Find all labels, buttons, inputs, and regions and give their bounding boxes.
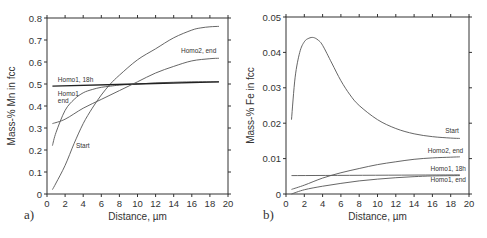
x-tick-label: 14 bbox=[409, 198, 420, 209]
curve-annotation: Homo2, end bbox=[181, 47, 217, 54]
curve-annotation: Homo1, 18h bbox=[58, 76, 94, 83]
y-tick-label: 0.8 bbox=[29, 13, 42, 24]
x-tick-label: 6 bbox=[99, 198, 104, 209]
x-axis-label: Distance, µm bbox=[348, 211, 407, 222]
x-tick-label: 16 bbox=[187, 198, 198, 209]
x-tick-label: 12 bbox=[150, 198, 161, 209]
y-axis-label: Mass-% Mn in fcc bbox=[6, 67, 17, 146]
curve-annotation: Start bbox=[76, 142, 90, 149]
y-tick-label: 0.6 bbox=[29, 57, 42, 68]
y-tick-label: 0 bbox=[37, 189, 42, 200]
panel-label: a) bbox=[24, 207, 34, 222]
curve-annotation: Homo1, 18h bbox=[431, 165, 467, 172]
x-tick-label: 2 bbox=[62, 198, 67, 209]
y-tick-label: 0.03 bbox=[263, 82, 282, 93]
curve-annotation: Start bbox=[445, 127, 459, 134]
y-tick-label: 0.01 bbox=[263, 153, 282, 164]
y-tick-label: 0.2 bbox=[29, 145, 42, 156]
figure: 0246810121416182000.10.20.30.40.50.60.70… bbox=[0, 0, 487, 238]
x-tick-label: 2 bbox=[302, 198, 307, 209]
x-tick-label: 4 bbox=[81, 198, 86, 209]
x-tick-label: 18 bbox=[205, 198, 216, 209]
y-tick-label: 0.04 bbox=[263, 47, 282, 58]
y-tick-label: 0.7 bbox=[29, 35, 42, 46]
x-tick-label: 18 bbox=[445, 198, 456, 209]
y-tick-label: 0.1 bbox=[29, 167, 42, 178]
y-tick-label: 0.3 bbox=[29, 123, 42, 134]
x-tick-label: 8 bbox=[117, 198, 122, 209]
chart-panel-b: 0246810121416182000.010.020.030.040.05Di… bbox=[245, 12, 474, 223]
x-axis-label: Distance, µm bbox=[108, 211, 167, 222]
x-tick-label: 16 bbox=[427, 198, 438, 209]
panel-label: b) bbox=[263, 207, 274, 222]
x-tick-label: 20 bbox=[464, 198, 475, 209]
chart-panel-a: 0246810121416182000.10.20.30.40.50.60.70… bbox=[6, 13, 233, 223]
x-tick-label: 14 bbox=[168, 198, 179, 209]
series-homo2-end bbox=[291, 157, 459, 190]
curve-annotation: Homo2, end bbox=[428, 147, 464, 154]
x-tick-label: 0 bbox=[283, 198, 288, 209]
plot-frame bbox=[47, 18, 228, 194]
x-tick-label: 0 bbox=[44, 198, 49, 209]
y-tick-label: 0.02 bbox=[263, 118, 282, 129]
x-tick-label: 12 bbox=[391, 198, 402, 209]
x-tick-label: 8 bbox=[357, 198, 362, 209]
curve-annotation: Homo1, end bbox=[431, 176, 467, 183]
y-tick-label: 0.5 bbox=[29, 79, 42, 90]
curve-annotation: end bbox=[58, 97, 69, 104]
y-axis-label: Mass-% Fe in fcc bbox=[245, 67, 256, 144]
x-tick-label: 4 bbox=[320, 198, 325, 209]
series-start bbox=[291, 37, 459, 138]
x-tick-label: 6 bbox=[338, 198, 343, 209]
x-tick-label: 10 bbox=[372, 198, 383, 209]
x-tick-label: 10 bbox=[132, 198, 143, 209]
y-tick-label: 0 bbox=[276, 189, 281, 200]
y-tick-label: 0.05 bbox=[263, 12, 282, 23]
y-tick-label: 0.4 bbox=[29, 101, 42, 112]
x-tick-label: 20 bbox=[223, 198, 234, 209]
